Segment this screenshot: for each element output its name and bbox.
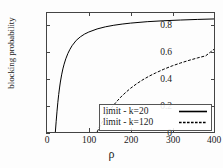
legend-key-dashed-icon [178, 118, 208, 127]
legend-key-solid-icon [178, 107, 208, 116]
legend-item-0: limit - k=20 [103, 106, 208, 117]
legend-label-0: limit - k=20 [103, 107, 148, 117]
y-tick-mark-0 [46, 133, 50, 134]
x-tick-label-3: 300 [153, 136, 193, 146]
y-axis-label: blocking probability [6, 0, 16, 108]
legend-item-1: limit - k=120 [103, 117, 208, 128]
x-tick-label-1: 100 [69, 136, 109, 146]
x-tick-label-0: 0 [27, 136, 67, 146]
chart-figure: blocking probability 0 0.2 0.4 0.6 0.8 0… [0, 0, 223, 168]
x-tick-label-4: 400 [194, 136, 223, 146]
chart-legend: limit - k=20 limit - k=120 [99, 104, 212, 131]
x-axis-label: ρ [0, 148, 223, 160]
legend-label-1: limit - k=120 [103, 118, 153, 128]
x-tick-label-2: 200 [111, 136, 151, 146]
